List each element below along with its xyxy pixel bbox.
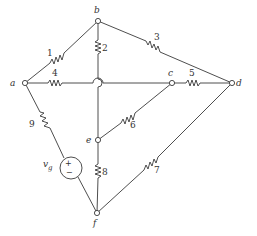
branch-1: 1 xyxy=(25,21,98,83)
node-d-label: d xyxy=(236,78,242,88)
branch-8: 8 xyxy=(95,140,108,213)
resistor-1-label: 1 xyxy=(47,48,53,58)
resistor-9-label: 9 xyxy=(29,119,35,129)
resistor-2-label: 2 xyxy=(102,43,108,53)
node-a-label: a xyxy=(10,78,15,88)
voltage-source: + − vg xyxy=(43,157,97,213)
node-b-label: b xyxy=(94,5,100,15)
branch-3: 3 xyxy=(98,21,232,83)
node-c-label: c xyxy=(168,68,173,78)
resistor-4-label: 4 xyxy=(52,68,58,78)
source-minus-sign: − xyxy=(66,168,73,177)
node-f: f xyxy=(92,210,100,228)
source-plus-sign: + xyxy=(65,159,72,168)
branch-2: 2 xyxy=(95,21,108,140)
resistor-9-icon xyxy=(40,112,50,128)
resistor-3-icon xyxy=(146,41,160,52)
circuit-diagram: 1 2 3 4 5 6 xyxy=(0,0,257,236)
resistor-8-icon xyxy=(95,164,101,178)
resistor-5-icon xyxy=(186,80,200,86)
source-label: vg xyxy=(43,159,53,172)
node-e-label: e xyxy=(86,135,91,145)
branch-9: 9 xyxy=(25,83,64,158)
node-f-label: f xyxy=(92,218,98,228)
node-d: d xyxy=(229,78,242,88)
resistor-5-label: 5 xyxy=(189,68,195,78)
node-b: b xyxy=(94,5,101,24)
branch-7: 7 xyxy=(97,83,232,213)
branch-6: 6 xyxy=(98,83,172,140)
node-c: c xyxy=(168,68,175,86)
resistor-6-label: 6 xyxy=(130,120,136,130)
branch-4: 4 xyxy=(25,68,172,86)
resistor-2-icon xyxy=(95,40,101,54)
resistor-8-label: 8 xyxy=(102,167,108,177)
resistor-4-icon xyxy=(48,80,62,86)
branch-5: 5 xyxy=(172,68,232,86)
resistor-7-label: 7 xyxy=(154,165,160,175)
node-a: a xyxy=(10,78,28,88)
resistor-3-label: 3 xyxy=(154,32,160,42)
